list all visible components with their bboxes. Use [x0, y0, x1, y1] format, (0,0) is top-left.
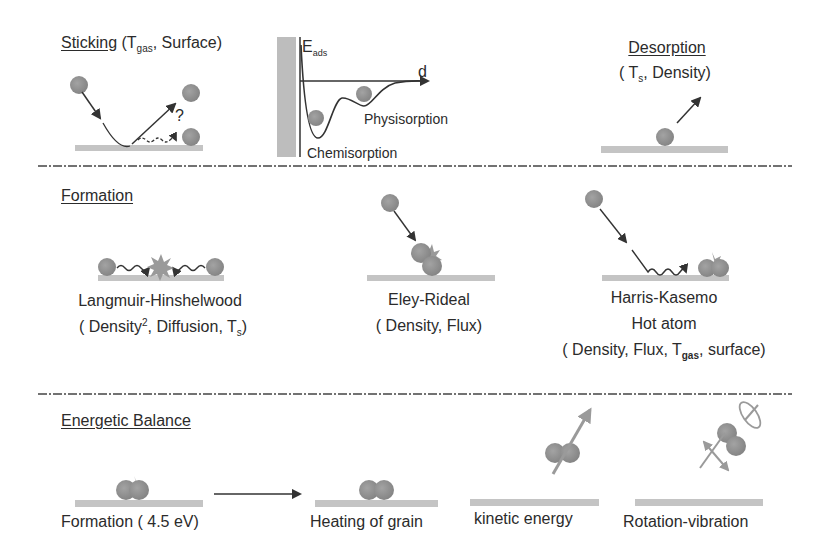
langmuir-hinshelwood-illustration [98, 254, 224, 281]
energetic-balance-title: Energetic Balance [61, 413, 191, 429]
rotation-vibration-label: Rotation-vibration [623, 514, 748, 530]
reflected-particle [182, 84, 200, 102]
surface-bar [315, 500, 438, 507]
surface-bar [601, 146, 728, 153]
harris-kasemo-label: Harris-Kasemo [611, 290, 718, 306]
desorption-illustration [601, 98, 728, 153]
desorbing-particle [656, 128, 674, 146]
harris-kasemo-params: ( Density, Flux, Tgas, surface) [562, 342, 765, 358]
surface-bar [470, 499, 599, 506]
chemisorbed-particle [308, 110, 324, 126]
diagram-graphics [0, 0, 828, 547]
langmuir-hinshelwood-label: Langmuir-Hinshelwood [78, 293, 242, 309]
hot-atom-label: Hot atom [632, 316, 697, 332]
langmuir-hinshelwood-params: ( Density2, Diffusion, Ts) [79, 319, 247, 335]
sticking-heading: Sticking (Tgas, Surface) [61, 35, 222, 51]
sticking-title: Sticking [61, 34, 117, 51]
eley-rideal-label: Eley-Rideal [388, 292, 470, 308]
adsorption-processes-diagram: Sticking (Tgas, Surface) ? Eads d Physis… [0, 0, 828, 547]
distance-axis-label: d [418, 64, 427, 80]
formation-energy-illustration [75, 476, 203, 507]
physisorbed-particle [356, 86, 372, 102]
stuck-particle [182, 128, 200, 146]
eley-rideal-params: ( Density, Flux) [376, 318, 482, 334]
desorption-title: Desorption [628, 40, 705, 56]
formation-title: Formation [61, 188, 133, 204]
kinetic-energy-label: kinetic energy [474, 511, 573, 527]
potential-energy-curve [277, 37, 428, 157]
surface-bar [75, 500, 203, 507]
harris-kasemo-illustration [585, 190, 729, 281]
rotation-vibration-illustration [635, 399, 764, 506]
eley-rideal-illustration [367, 194, 495, 281]
heating-of-grain-illustration [315, 480, 438, 507]
kinetic-energy-illustration [470, 410, 599, 506]
surface-bar [75, 145, 203, 151]
formation-energy-label: Formation ( 4.5 eV) [61, 514, 199, 530]
surface-bar [635, 499, 763, 506]
heating-of-grain-label: Heating of grain [310, 514, 423, 530]
incoming-particle [70, 76, 88, 94]
energy-axis-label: Eads [302, 39, 327, 55]
physisorption-label: Physisorption [364, 112, 448, 126]
sticking-question-mark: ? [175, 108, 184, 124]
chemisorption-label: Chemisorption [307, 146, 397, 160]
surface-wall [277, 37, 296, 157]
desorption-params: ( Ts, Density) [619, 65, 711, 81]
